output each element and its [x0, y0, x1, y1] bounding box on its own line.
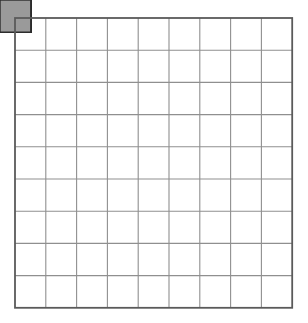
figure-root: [0, 0, 308, 323]
quilt-pattern-canvas: [0, 0, 308, 323]
quilt-svg: [0, 0, 308, 323]
